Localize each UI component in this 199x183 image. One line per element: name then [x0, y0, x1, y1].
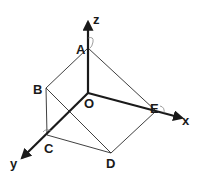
label-x: x [182, 113, 190, 128]
label-a: A [76, 42, 86, 57]
edge-b-c [46, 88, 47, 135]
label-z: z [93, 12, 100, 27]
y-axis [22, 93, 88, 158]
solid-edges [46, 48, 156, 153]
angle-marks [43, 38, 164, 133]
x-axis [88, 93, 182, 118]
label-c: C [44, 141, 54, 156]
labels: z x y A B O E C D [10, 12, 190, 171]
label-o: O [84, 96, 94, 111]
label-b: B [33, 82, 42, 97]
label-y: y [10, 156, 18, 171]
edge-b-d [46, 88, 111, 153]
label-e: E [150, 101, 159, 116]
label-d: D [106, 156, 115, 171]
coordinate-diagram: z x y A B O E C D [0, 0, 199, 183]
edge-d-e [111, 111, 156, 153]
